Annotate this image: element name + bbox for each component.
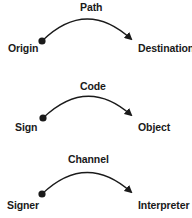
diagram-3 (38, 172, 131, 197)
relation-label-path: Path (80, 1, 102, 13)
diagram-2 (39, 96, 131, 121)
path-arrow (42, 19, 131, 41)
relation-label-channel: Channel (68, 153, 109, 165)
source-label-signer: Signer (7, 199, 39, 211)
source-label-sign: Sign (15, 121, 37, 133)
source-label-origin: Origin (8, 42, 38, 54)
diagram-canvas (0, 0, 192, 218)
target-label-object: Object (138, 121, 170, 133)
target-label-destination: Destination (138, 42, 192, 54)
code-arrow (43, 96, 131, 118)
target-label-interpreter: Interpreter (138, 199, 189, 211)
sign-dot (39, 114, 46, 121)
signer-dot (38, 190, 45, 197)
diagram-1 (38, 19, 131, 45)
relation-label-code: Code (80, 80, 106, 92)
channel-arrow (42, 172, 131, 194)
origin-dot (38, 37, 45, 44)
